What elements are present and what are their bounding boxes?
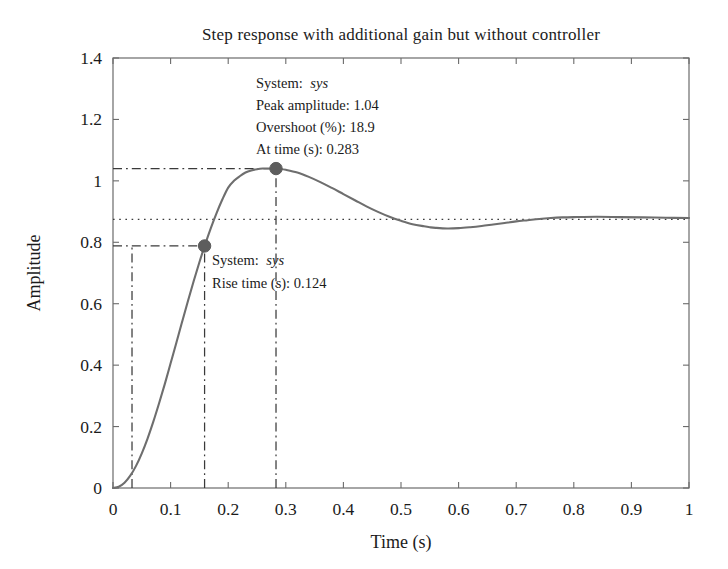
rise-time-marker[interactable]	[198, 240, 210, 252]
rise-time-text: Rise time (s): 0.124	[212, 275, 327, 292]
y-tick-label-0: 0	[93, 478, 102, 498]
overshoot-text: Overshoot (%): 18.9	[256, 119, 375, 136]
rise-system-value: sys	[266, 252, 284, 268]
y-tick-label-2: 0.4	[80, 355, 102, 375]
figure-background	[0, 0, 728, 569]
x-axis-label: Time (s)	[371, 532, 432, 553]
peak-amplitude-text: Peak amplitude: 1.04	[256, 97, 380, 113]
y-tick-label-7: 1.4	[80, 48, 102, 68]
rise-system-label: System:	[212, 252, 259, 268]
peak-system-value: sys	[310, 75, 328, 91]
peak-marker[interactable]	[270, 162, 282, 174]
x-tick-label-9: 0.9	[620, 499, 642, 519]
chart-title: Step response with additional gain but w…	[202, 25, 600, 44]
y-tick-label-1: 0.2	[80, 417, 102, 437]
peak-annotation-line-1: System: sys	[256, 75, 328, 91]
plot-canvas: Step response with additional gain but w…	[0, 0, 728, 569]
y-tick-label-6: 1.2	[80, 109, 102, 129]
x-tick-label-10: 1	[685, 499, 694, 519]
x-tick-label-1: 0.1	[160, 499, 182, 519]
peak-time-text: At time (s): 0.283	[256, 141, 359, 158]
x-tick-label-8: 0.8	[563, 499, 585, 519]
x-tick-label-2: 0.2	[217, 499, 239, 519]
x-tick-label-4: 0.4	[332, 499, 354, 519]
x-tick-label-7: 0.7	[505, 499, 527, 519]
x-tick-label-3: 0.3	[275, 499, 297, 519]
y-axis-label: Amplitude	[24, 234, 44, 311]
rise-annotation-line-1: System: sys	[212, 252, 284, 268]
y-tick-label-4: 0.8	[80, 232, 102, 252]
y-tick-label-3: 0.6	[80, 294, 102, 314]
x-tick-label-0: 0	[109, 499, 118, 519]
x-tick-label-6: 0.6	[448, 499, 470, 519]
peak-system-label: System:	[256, 75, 303, 91]
step-response-figure: Step response with additional gain but w…	[0, 0, 728, 569]
x-tick-label-5: 0.5	[390, 499, 412, 519]
y-tick-label-5: 1	[93, 171, 102, 191]
